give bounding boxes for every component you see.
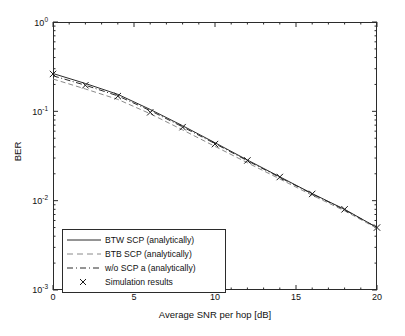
- xtick-label: 5: [119, 293, 149, 302]
- legend-swatch-dashed: [63, 248, 105, 260]
- legend-swatch-marker: [63, 276, 105, 288]
- ytick-label: 10-2: [18, 195, 48, 206]
- legend-item: BTB SCP (analytically): [63, 247, 225, 261]
- ytick-exponent: -1: [42, 105, 48, 112]
- legend-label: BTW SCP (analytically): [105, 236, 194, 245]
- ytick-mantissa: 10: [32, 196, 42, 206]
- ytick-label: 10-3: [18, 284, 48, 295]
- ytick-exponent: 0: [44, 16, 48, 23]
- xtick-label: 10: [200, 293, 230, 302]
- ytick-label: 100: [18, 17, 48, 28]
- legend-item: w/o SCP a (analytically): [63, 261, 225, 275]
- legend-label: BTB SCP (analytically): [105, 250, 192, 259]
- x-axis-title: Average SNR per hop [dB]: [53, 309, 377, 320]
- ytick-mantissa: 10: [32, 107, 42, 117]
- xtick-label: 15: [281, 293, 311, 302]
- legend-item: Simulation results: [63, 275, 225, 289]
- legend-item: BTW SCP (analytically): [63, 233, 225, 247]
- ytick-exponent: -2: [42, 194, 48, 201]
- chart-legend: BTW SCP (analytically) BTB SCP (analytic…: [62, 229, 226, 293]
- legend-swatch-solid: [63, 234, 105, 246]
- ytick-exponent: -3: [42, 283, 48, 290]
- legend-label: Simulation results: [105, 278, 173, 287]
- ytick-mantissa: 10: [34, 18, 44, 28]
- y-axis-title: BER: [12, 122, 23, 182]
- figure-canvas: 0 5 10 15 20 100 10-1 10-2 10-3 Average …: [0, 0, 405, 336]
- ytick-label: 10-1: [18, 106, 48, 117]
- ytick-mantissa: 10: [32, 285, 42, 295]
- legend-label: w/o SCP a (analytically): [105, 264, 196, 273]
- xtick-label: 20: [362, 293, 392, 302]
- legend-swatch-dashdot: [63, 262, 105, 274]
